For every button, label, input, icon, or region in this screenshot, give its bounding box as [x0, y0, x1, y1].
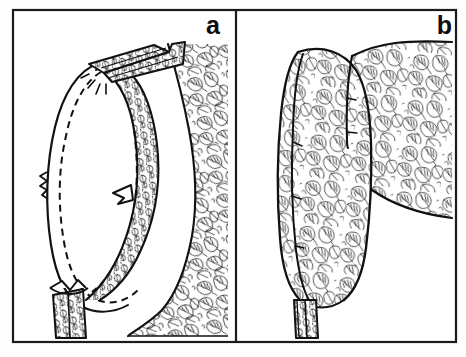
- panel-label-b: b: [437, 11, 452, 39]
- sewing-illustration-figure: a: [0, 0, 466, 357]
- illustration-canvas: a: [0, 0, 466, 357]
- seam-allowance-strip: [294, 300, 318, 338]
- panel-label-a: a: [206, 11, 221, 39]
